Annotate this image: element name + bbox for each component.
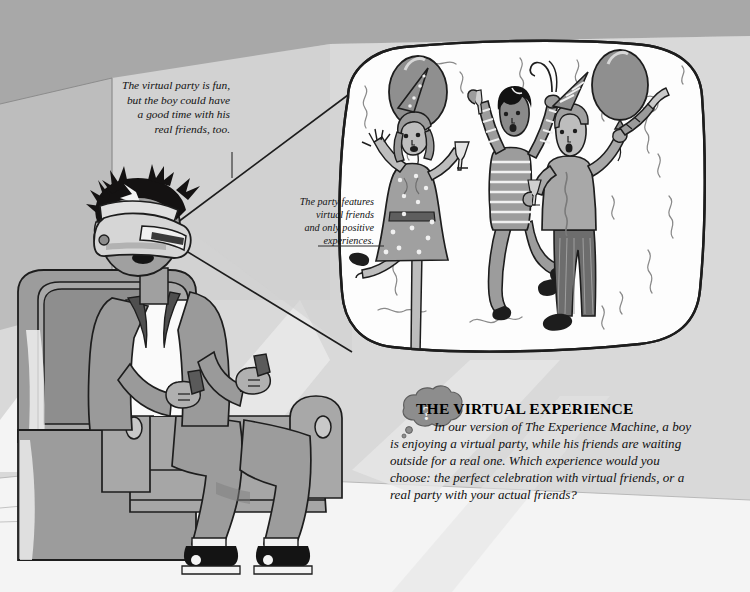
vr-headset (94, 201, 191, 258)
caption-party-features: The party features virtual friends and o… (206, 195, 374, 247)
callout-heading: THE VIRTUAL EXPERIENCE (416, 400, 728, 417)
callout-body: In our version of The Experience Machine… (390, 418, 698, 503)
shirt-stripes (490, 162, 531, 222)
illustration-page: ? The virtual party is fun, but the boy … (0, 0, 750, 592)
thought-bubble-party-scene (339, 41, 704, 365)
callout-block: THE VIRTUAL EXPERIENCE In our version of… (416, 400, 728, 503)
caption-virtual-party: The virtual party is fun, but the boy co… (44, 78, 230, 136)
